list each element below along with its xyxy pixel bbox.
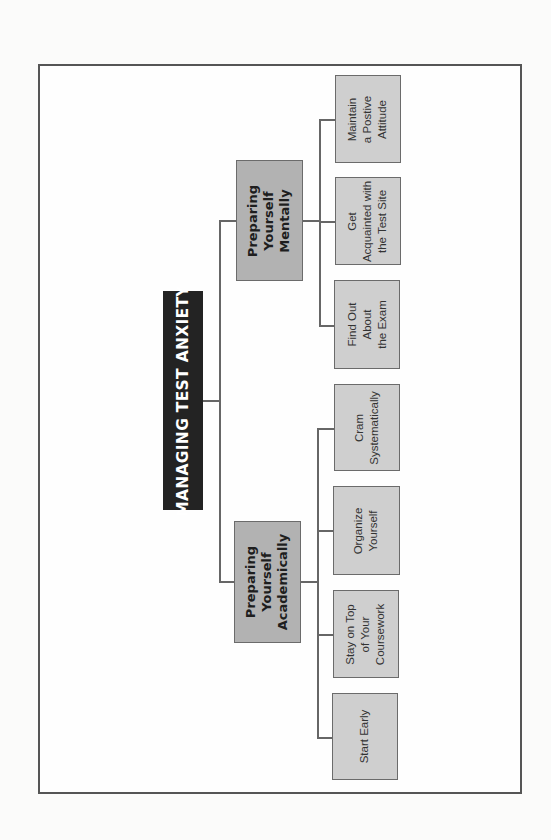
leaf-node-stay-on-top: Stay on Top of Your Coursework <box>333 590 399 678</box>
connector-academic-branch <box>301 581 318 583</box>
leaf-label: Find Out About the Exam <box>344 300 389 349</box>
connector-stay-on-top <box>317 634 333 636</box>
connector-mental-vertical <box>319 119 321 326</box>
branch-node-mental: Preparing Yourself Mentally <box>236 160 303 281</box>
leaf-label: Get Acquainted with the Test Site <box>346 180 391 261</box>
connector-organize <box>317 530 333 532</box>
branch-node-academic: Preparing Yourself Academically <box>234 521 301 643</box>
leaf-node-start-early: Start Early <box>332 693 398 780</box>
root-label: MANAGING TEST ANXIETY <box>174 285 192 517</box>
connector-start-early <box>317 737 332 739</box>
root-node: MANAGING TEST ANXIETY <box>163 291 203 510</box>
leaf-label: Start Early <box>358 710 373 764</box>
leaf-node-organize: Organize Yourself <box>333 486 400 575</box>
leaf-node-cram: Cram Systematically <box>334 384 400 471</box>
connector-trunk-academic <box>219 581 235 583</box>
leaf-label: Stay on Top of Your Coursework <box>343 603 388 664</box>
connector-trunk <box>219 220 221 582</box>
leaf-label: Maintain a Postive Attitude <box>346 95 391 142</box>
connector-find-out <box>319 325 334 327</box>
connector-trunk-mental <box>219 220 236 222</box>
connector-get-acquainted <box>319 221 335 223</box>
connector-root-trunk <box>203 400 220 402</box>
connector-cram <box>317 428 334 430</box>
branch-label-academic: Preparing Yourself Academically <box>244 534 292 631</box>
leaf-node-find-out: Find Out About the Exam <box>334 280 400 369</box>
leaf-label: Cram Systematically <box>352 391 382 465</box>
connector-mental-branch <box>303 220 320 222</box>
leaf-label: Organize Yourself <box>351 507 381 554</box>
connector-maintain <box>319 119 335 121</box>
leaf-node-get-acquainted: Get Acquainted with the Test Site <box>335 177 401 265</box>
connector-academic-vertical <box>317 428 319 738</box>
branch-label-mental: Preparing Yourself Mentally <box>246 184 294 256</box>
leaf-node-maintain-attitude: Maintain a Postive Attitude <box>335 75 401 163</box>
